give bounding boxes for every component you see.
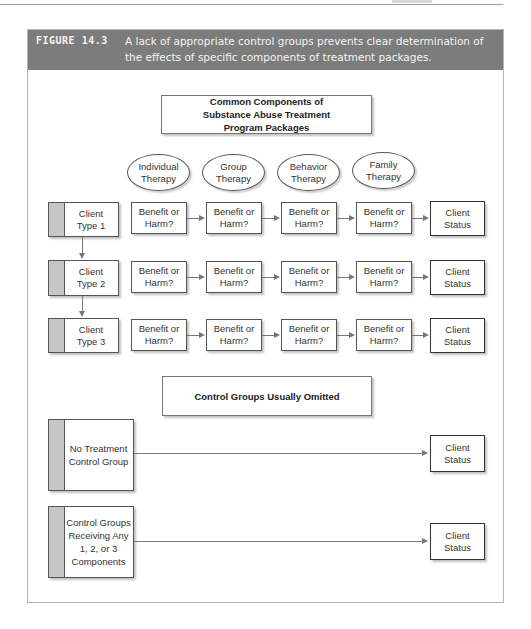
partial-components-control-box: Control Groups Receiving Any 1, 2, or 3 … — [48, 506, 134, 578]
arrow-right-icon — [199, 274, 205, 280]
row3-step4: Benefit or Harm? — [356, 319, 412, 351]
arrow-right-icon — [422, 450, 428, 456]
client-strip — [49, 507, 65, 577]
arrow-right-icon — [274, 215, 280, 221]
client-strip — [49, 261, 65, 295]
treatment-title-box: Common Components of Substance Abuse Tre… — [161, 95, 372, 134]
row2-step1: Benefit or Harm? — [131, 261, 187, 293]
arrow-down-icon — [79, 253, 85, 259]
row3-step2: Benefit or Harm? — [206, 319, 262, 351]
no-treatment-control-box: No Treatment Control Group — [48, 419, 134, 491]
arrow-right-icon — [199, 215, 205, 221]
row3-step1: Benefit or Harm? — [131, 319, 187, 351]
row1-step4: Benefit or Harm? — [356, 202, 412, 234]
component-behavior-therapy: Behavior Therapy — [277, 154, 340, 191]
row1-client-status: Client Status — [430, 201, 485, 236]
component-family-therapy: Family Therapy — [352, 152, 415, 189]
arrow-right-icon — [274, 274, 280, 280]
diagram: Common Components of Substance Abuse Tre… — [0, 0, 531, 629]
arrow-right-icon — [199, 332, 205, 338]
arrow-down-icon — [79, 311, 85, 317]
control-title-box: Control Groups Usually Omitted — [162, 376, 372, 416]
arrow-right-icon — [423, 215, 429, 221]
row2-step2: Benefit or Harm? — [206, 261, 262, 293]
arrow-right-icon — [349, 215, 355, 221]
control-title: Control Groups Usually Omitted — [194, 390, 339, 403]
arrow-right-icon — [349, 274, 355, 280]
component-group-therapy: Group Therapy — [202, 154, 265, 191]
client-type-3-box: Client Type 3 — [48, 318, 119, 353]
client-type-2-box: Client Type 2 — [48, 260, 119, 296]
row3-client-status: Client Status — [430, 318, 485, 353]
treatment-title: Common Components of Substance Abuse Tre… — [187, 95, 347, 134]
row1-step1: Benefit or Harm? — [131, 202, 187, 234]
client-strip — [49, 420, 65, 490]
row2-client-status: Client Status — [430, 260, 485, 295]
client-strip — [49, 319, 65, 352]
arrow-right-icon — [274, 332, 280, 338]
row3-step3: Benefit or Harm? — [281, 319, 337, 351]
control2-client-status: Client Status — [430, 523, 485, 560]
row2-step3: Benefit or Harm? — [281, 261, 337, 293]
arrow-right-icon — [423, 332, 429, 338]
arrow-right-icon — [423, 274, 429, 280]
arrow-right-icon — [422, 538, 428, 544]
row2-step4: Benefit or Harm? — [356, 261, 412, 293]
arrow-right-icon — [349, 332, 355, 338]
component-individual-therapy: Individual Therapy — [127, 154, 190, 191]
row1-step3: Benefit or Harm? — [281, 202, 337, 234]
control1-client-status: Client Status — [430, 435, 485, 472]
client-strip — [49, 203, 65, 236]
row1-step2: Benefit or Harm? — [206, 202, 262, 234]
client-type-1-box: Client Type 1 — [48, 202, 119, 237]
